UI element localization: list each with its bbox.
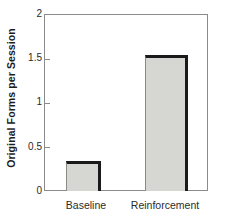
- x-label-baseline: Baseline: [66, 199, 106, 211]
- plot-area: [44, 14, 208, 191]
- bar-baseline[interactable]: [66, 161, 101, 191]
- y-tick-label-2: 2: [8, 9, 42, 19]
- y-tick-mark-1: [45, 103, 50, 104]
- bar-chart: Original Forms per Session 2 1.5 1 0.5 0…: [0, 0, 226, 221]
- y-tick-label-0: 0: [8, 186, 42, 196]
- y-tick-label-1.5: 1.5: [8, 53, 42, 63]
- x-label-reinforcement: Reinforcement: [131, 199, 199, 211]
- y-tick-label-0.5: 0.5: [8, 142, 42, 152]
- y-tick-mark-0.5: [45, 147, 50, 148]
- bar-reinforcement[interactable]: [145, 55, 188, 191]
- y-tick-mark-1.5: [45, 59, 50, 60]
- y-tick-label-1: 1: [8, 97, 42, 107]
